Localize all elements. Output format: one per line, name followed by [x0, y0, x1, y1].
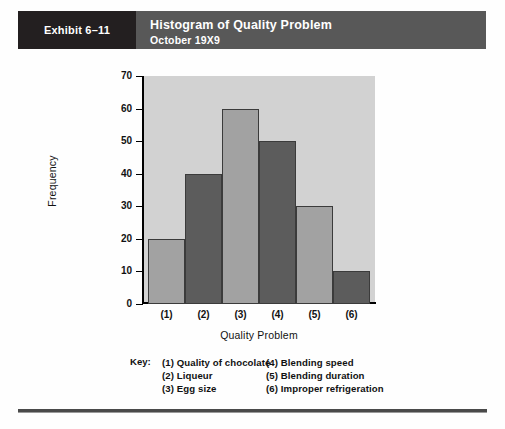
y-axis-tick-label-wrap: 30	[108, 201, 132, 211]
y-axis-tick	[136, 174, 143, 175]
key-item: (5) Blending duration	[266, 369, 384, 382]
y-axis-tick	[136, 239, 143, 240]
y-axis-tick-label-wrap: 40	[108, 169, 132, 179]
y-axis-tick-label: 0	[108, 299, 132, 309]
y-axis-tick	[136, 271, 143, 272]
y-axis-tick	[136, 304, 143, 305]
y-axis-tick	[136, 141, 143, 142]
histogram-bar	[296, 206, 333, 304]
key-item: (4) Blending speed	[266, 356, 384, 369]
exhibit-header: Exhibit 6–11 Histogram of Quality Proble…	[18, 11, 486, 49]
y-axis-tick-label: 70	[108, 71, 132, 81]
y-axis-tick-label-wrap: 20	[108, 234, 132, 244]
y-axis-tick	[136, 109, 143, 110]
x-axis-title: Quality Problem	[143, 329, 375, 341]
y-axis-tick-label: 30	[108, 201, 132, 211]
bars-container	[148, 76, 370, 304]
x-axis-tick-label: (3)	[221, 309, 261, 320]
y-axis-tick-label: 50	[108, 136, 132, 146]
y-axis-tick-label-wrap: 10	[108, 266, 132, 276]
y-axis-tick-label-wrap: 60	[108, 104, 132, 114]
page-title: Histogram of Quality Problem	[150, 18, 486, 33]
y-axis-tick-label-wrap: 50	[108, 136, 132, 146]
key-item: (2) Liqueur	[162, 369, 270, 382]
histogram-bar	[222, 109, 259, 304]
y-axis-tick-label-wrap: 70	[108, 71, 132, 81]
y-axis-tick-label: 60	[108, 104, 132, 114]
x-axis-tick-label: (1)	[147, 309, 187, 320]
exhibit-title-bar: Histogram of Quality Problem October 19X…	[136, 11, 486, 49]
x-axis-tick-label: (2)	[184, 309, 224, 320]
x-axis-tick-label: (4)	[258, 309, 298, 320]
y-axis-title: Frequency	[46, 126, 58, 236]
y-axis-tick-label: 20	[108, 234, 132, 244]
histogram-bar	[333, 271, 370, 304]
y-axis-tick-label: 10	[108, 266, 132, 276]
y-axis-tick	[136, 206, 143, 207]
x-axis-tick-label: (6)	[332, 309, 372, 320]
histogram-chart: 706050403020100 Frequency (1)(2)(3)(4)(5…	[0, 55, 505, 355]
key-item: (3) Egg size	[162, 382, 270, 395]
key-item: (6) Improper refrigeration	[266, 382, 384, 395]
exhibit-number-tag: Exhibit 6–11	[18, 11, 136, 49]
histogram-bar	[185, 174, 222, 304]
histogram-bar	[259, 141, 296, 304]
key-label: Key:	[130, 356, 151, 367]
y-axis-line	[142, 76, 144, 304]
key-column-left: (1) Quality of chocolate(2) Liqueur(3) E…	[162, 356, 270, 396]
x-axis-tick-label: (5)	[295, 309, 335, 320]
histogram-bar	[148, 239, 185, 304]
y-axis-tick-label: 40	[108, 169, 132, 179]
y-axis-tick	[136, 76, 143, 77]
page-subtitle: October 19X9	[150, 33, 486, 47]
footer-divider	[18, 409, 487, 413]
key-item: (1) Quality of chocolate	[162, 356, 270, 369]
y-axis-tick-label-wrap: 0	[108, 299, 132, 309]
key-column-right: (4) Blending speed(5) Blending duration(…	[266, 356, 384, 396]
